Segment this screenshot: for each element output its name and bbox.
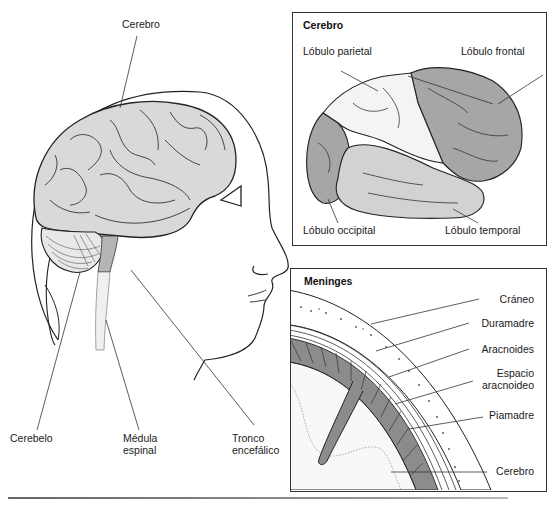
label-lobulo-temporal: Lóbulo temporal [445,224,520,236]
label-medula-line2: espinal [123,444,156,456]
cerebellum-shape [41,228,104,272]
label-cerebelo: Cerebelo [10,432,53,444]
label-duramadre: Duramadre [481,317,534,329]
panel-cerebro-title: Cerebro [303,19,343,31]
label-craneo: Cráneo [500,293,534,305]
label-tronco-line1: Tronco [232,432,264,444]
label-cerebro: Cerebro [122,18,160,30]
label-aracnoides: Aracnoides [481,343,534,355]
label-cerebro-meninges: Cerebro [496,465,534,477]
label-tronco-line2: encefálico [232,444,279,456]
bottom-divider [8,497,508,499]
label-espacio-line1: Espacio [497,367,534,379]
spinal-cord-shape [96,272,110,350]
label-lobulo-frontal: Lóbulo frontal [461,45,525,57]
panel-meninges: Meninges Cráneo Duramadre Aracnoides Esp… [290,268,547,492]
label-lobulo-occipital: Lóbulo occipital [303,224,375,236]
label-medula-line1: Médula [123,432,157,444]
label-piamadre: Piamadre [489,409,534,421]
panel-meninges-title: Meninges [304,275,352,287]
brain-shape [34,101,236,237]
label-lobulo-parietal: Lóbulo parietal [303,45,372,57]
label-espacio-line2: aracnoideo [482,379,534,391]
panel-cerebro: Cerebro Lóbulo parietal Lóbulo frontal L… [292,12,547,246]
